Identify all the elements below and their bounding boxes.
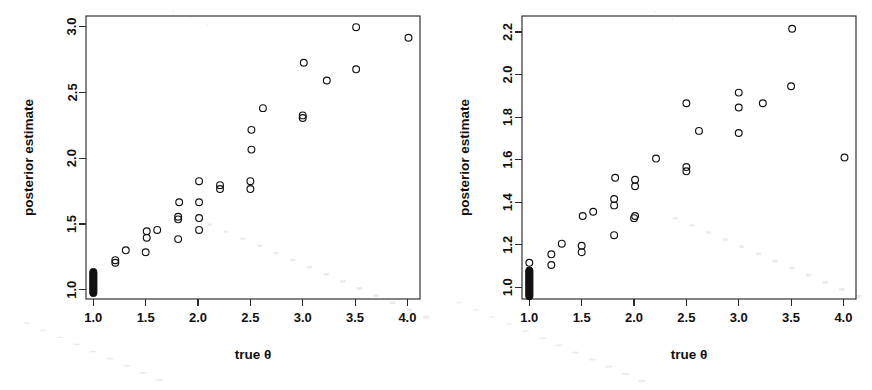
data-point xyxy=(143,228,150,235)
x-tick-label: 3.5 xyxy=(782,310,800,325)
data-point xyxy=(558,240,565,247)
y-tick-label: 2.0 xyxy=(500,65,515,83)
x-axis: 1.01.52.02.53.03.54.0 xyxy=(520,299,852,325)
x-axis: 1.01.52.02.53.03.54.0 xyxy=(84,299,416,325)
x-tick-label: 3.5 xyxy=(346,310,364,325)
data-point-group xyxy=(526,25,848,268)
data-point xyxy=(353,66,360,73)
data-point xyxy=(696,127,703,134)
data-point xyxy=(526,259,533,266)
figure-row: 1.01.52.02.53.03.54.01.01.52.02.53.0true… xyxy=(0,0,872,390)
y-tick-label: 1.4 xyxy=(501,192,516,211)
scan-texture xyxy=(456,11,861,382)
y-tick-label: 3.0 xyxy=(65,17,80,35)
y-axis: 1.01.52.02.53.0 xyxy=(64,17,86,298)
x-tick-label: 1.0 xyxy=(520,310,538,325)
x-tick-label: 2.0 xyxy=(625,310,643,325)
data-point xyxy=(196,227,203,234)
data-point xyxy=(578,249,585,256)
x-tick-label: 2.0 xyxy=(189,310,207,325)
data-point xyxy=(154,227,161,234)
y-tick-label: 1.0 xyxy=(500,278,515,296)
data-point xyxy=(175,236,182,243)
left-panel: 1.01.52.02.53.03.54.01.01.52.02.53.0true… xyxy=(0,0,436,390)
data-point xyxy=(248,146,255,153)
plot-frame xyxy=(86,16,420,299)
data-point xyxy=(611,196,618,203)
y-tick-label: 1.5 xyxy=(65,215,80,233)
y-tick-label: 1.6 xyxy=(500,151,515,169)
data-point xyxy=(176,199,183,206)
data-point xyxy=(683,164,690,171)
y-tick-label: 1.2 xyxy=(501,236,516,254)
x-tick-label: 3.0 xyxy=(294,310,312,325)
data-point xyxy=(579,213,586,220)
data-point xyxy=(612,174,619,181)
data-point xyxy=(759,100,766,107)
x-tick-label: 4.0 xyxy=(398,310,416,325)
y-tick-label: 2.2 xyxy=(500,23,515,41)
x-axis-title: true θ xyxy=(671,347,708,362)
y-tick-label: 2.5 xyxy=(65,83,80,101)
data-point xyxy=(632,176,639,183)
data-point xyxy=(611,232,618,239)
data-point xyxy=(248,126,255,133)
data-point xyxy=(548,251,555,258)
data-point xyxy=(142,249,149,256)
data-point xyxy=(788,83,795,90)
x-tick-label: 1.5 xyxy=(137,310,155,325)
scan-texture xyxy=(24,10,429,381)
data-point xyxy=(122,247,129,254)
data-point xyxy=(260,105,267,112)
data-point xyxy=(735,89,742,96)
data-point xyxy=(789,25,796,32)
y-axis-title: posterior estimate xyxy=(457,98,472,216)
y-axis-title: posterior estimate xyxy=(21,98,36,216)
x-tick-label: 1.0 xyxy=(84,310,102,325)
y-tick-label: 1.0 xyxy=(64,281,79,299)
right-panel-plot: 1.01.52.02.53.03.54.01.01.21.41.61.82.02… xyxy=(436,0,872,390)
x-tick-label: 2.5 xyxy=(677,310,695,325)
y-axis: 1.01.21.41.61.82.02.2 xyxy=(500,23,522,296)
data-point xyxy=(323,77,330,84)
data-point xyxy=(632,183,639,190)
data-point xyxy=(632,213,639,220)
right-panel: 1.01.52.02.53.03.54.01.01.21.41.61.82.02… xyxy=(436,0,872,390)
x-tick-label: 3.0 xyxy=(730,310,748,325)
data-point xyxy=(196,199,203,206)
x-tick-label: 2.5 xyxy=(241,310,259,325)
data-point xyxy=(405,34,412,41)
data-point-group xyxy=(112,24,412,266)
x-tick-label: 4.0 xyxy=(834,310,852,325)
y-tick-label: 1.8 xyxy=(501,108,516,126)
data-point xyxy=(143,234,150,241)
y-tick-label: 2.0 xyxy=(64,149,79,167)
plot-frame xyxy=(522,16,856,299)
data-point xyxy=(196,215,203,222)
data-point xyxy=(735,104,742,111)
data-point xyxy=(653,155,660,162)
data-point xyxy=(578,242,585,249)
x-axis-title: true θ xyxy=(235,347,272,362)
data-point xyxy=(735,130,742,137)
data-point xyxy=(353,24,360,31)
data-point xyxy=(247,178,254,185)
data-point xyxy=(247,186,254,193)
x-tick-label: 1.5 xyxy=(573,310,591,325)
data-point xyxy=(683,100,690,107)
data-point xyxy=(196,178,203,185)
data-point xyxy=(590,208,597,215)
data-point xyxy=(300,59,307,66)
dense-point-cluster xyxy=(526,267,533,300)
data-point xyxy=(548,262,555,269)
data-point xyxy=(841,154,848,161)
dense-point-cluster xyxy=(90,269,97,297)
data-point xyxy=(611,202,618,209)
left-panel-plot: 1.01.52.02.53.03.54.01.01.52.02.53.0true… xyxy=(0,0,436,390)
